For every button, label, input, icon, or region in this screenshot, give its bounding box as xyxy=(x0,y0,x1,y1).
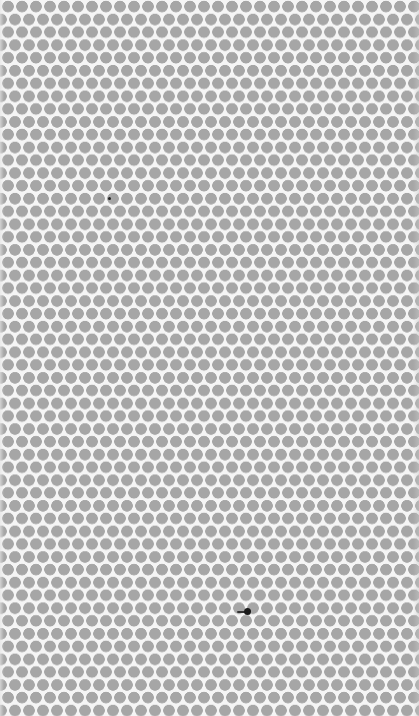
dot-pattern-background xyxy=(0,0,419,716)
right-edge-shading xyxy=(413,0,419,716)
small-speck-mark xyxy=(108,197,111,200)
left-edge-shading xyxy=(0,0,4,716)
dark-blot-mark xyxy=(244,608,251,615)
